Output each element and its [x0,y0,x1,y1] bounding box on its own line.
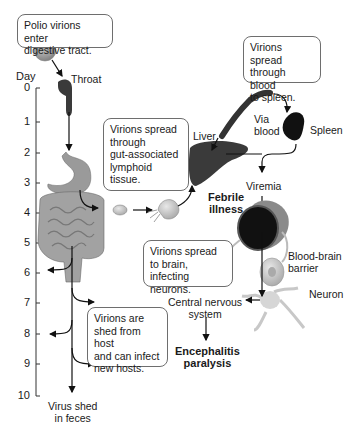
callout-shed: Virions are shed from host and can infec… [87,307,168,367]
label-liver: Liver [193,130,216,142]
tick-6: 6 [14,266,30,278]
lymph-node-large [158,200,179,219]
liver-shape [189,141,248,186]
callout-lymphoid: Virions spread through gut-associated ly… [103,118,189,191]
tick-2: 2 [14,146,30,158]
stomach-shape [48,152,91,194]
label-febrile-illness: Febrile illness [208,191,244,215]
tick-9: 9 [14,357,30,369]
tick-8: 8 [14,327,30,339]
callout-brain-spread: Virions spread to brain, infecting neuro… [143,240,233,287]
spleen-shape [283,112,305,140]
throat-shape [58,80,72,116]
label-throat: Throat [71,73,101,85]
label-encephalitis-paralysis: Encephalitis paralysis [175,345,240,369]
label-neuron: Neuron [309,288,343,300]
tick-5: 5 [14,236,30,248]
label-viremia: Viremia [246,180,281,192]
callout-enter: Polio virions enter digestive tract. [17,14,113,48]
tick-3: 3 [14,176,30,188]
intestines-shape [38,192,104,282]
tick-4: 4 [14,206,30,218]
label-feces: Virus shed in feces [48,400,97,424]
label-spleen: Spleen [310,124,343,136]
tick-1: 1 [14,115,30,127]
tick-0: 0 [14,81,30,93]
label-blood-brain-barrier: Blood-brain barrier [288,250,342,274]
tick-7: 7 [14,296,30,308]
tick-10: 10 [14,389,30,401]
callout-spleen-spread: Virions spread through blood to spleen. [243,36,321,83]
label-cns: Central nervous system [168,296,242,320]
lymph-node-small [113,205,127,215]
label-via-blood: Via blood [254,113,280,137]
